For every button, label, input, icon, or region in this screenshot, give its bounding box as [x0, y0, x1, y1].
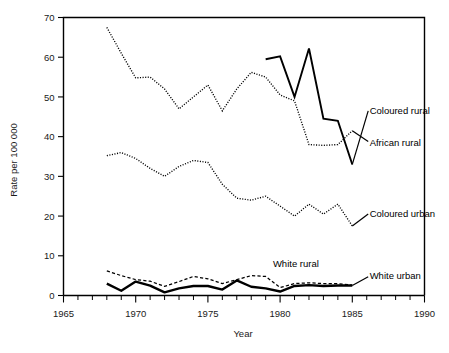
y-tick-label: 60 — [44, 52, 55, 63]
leader-white-urban — [352, 277, 368, 286]
x-tick-label: 1970 — [125, 308, 146, 319]
y-tick-label: 30 — [44, 171, 55, 182]
y-tick-label: 50 — [44, 92, 55, 103]
x-tick-label: 1985 — [342, 308, 363, 319]
x-axis-title: Year — [233, 328, 252, 339]
series-traces — [107, 27, 368, 292]
x-tick-label: 1975 — [197, 308, 218, 319]
series-label-white-urban: White urban — [370, 270, 421, 281]
series-label-coloured-rural: Coloured rural — [370, 105, 430, 116]
series-line-coloured-rural — [266, 48, 353, 164]
x-tick-label: 1980 — [270, 308, 291, 319]
leader-coloured-rural — [352, 111, 368, 165]
series-label-african-rural: African rural — [370, 137, 421, 148]
series-label-coloured-urban: Coloured urban — [370, 208, 436, 219]
axis-ticks — [58, 18, 425, 303]
series-line-african-rural — [107, 27, 352, 145]
y-tick-label: 70 — [44, 12, 55, 23]
y-tick-label: 40 — [44, 131, 55, 142]
plot-frame — [64, 18, 425, 296]
axes — [64, 18, 425, 296]
y-axis-title: Rate per 100 000 — [8, 123, 19, 196]
series-line-white-urban — [107, 280, 352, 292]
y-tick-label: 0 — [49, 290, 54, 301]
y-tick-labels: 010203040506070 — [44, 12, 55, 301]
leader-coloured-urban — [352, 214, 368, 226]
series-line-coloured-urban — [107, 153, 352, 226]
x-tick-labels: 196519701975198019851990 — [53, 308, 435, 319]
y-tick-label: 10 — [44, 250, 55, 261]
chart-figure: 196519701975198019851990 010203040506070… — [0, 0, 449, 353]
x-tick-label: 1990 — [414, 308, 435, 319]
y-tick-label: 20 — [44, 211, 55, 222]
line-chart: 196519701975198019851990 010203040506070… — [0, 0, 449, 353]
leader-african-rural — [352, 131, 368, 142]
series-label-white-rural: White rural — [273, 258, 319, 269]
x-tick-label: 1965 — [53, 308, 74, 319]
